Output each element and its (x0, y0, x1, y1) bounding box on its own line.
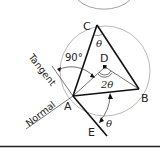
label-theta-C: θ (96, 38, 102, 49)
label-C: C (83, 20, 91, 33)
label-normal: Normal (23, 99, 57, 129)
label-theta-E: θ (106, 118, 112, 129)
label-2theta: 2θ (100, 79, 113, 90)
arrowhead-down (99, 117, 104, 123)
circle-theorem-diagram: C B A D E 90° θ 2θ θ Tangent Normal (0, 0, 160, 149)
center-point-D (103, 65, 107, 69)
arrowhead-left (57, 67, 61, 72)
central-angle-arc-1 (99, 71, 111, 75)
partial-circle-arc (78, 0, 130, 9)
right-angle-arc (58, 67, 94, 77)
inscribed-angle-arc (94, 34, 103, 36)
side-AB (73, 89, 139, 96)
label-E: E (88, 126, 95, 139)
label-A: A (64, 100, 72, 113)
label-90-degrees: 90° (65, 52, 83, 63)
label-B: B (141, 92, 149, 105)
arrowhead-up (108, 93, 113, 99)
label-D: D (100, 52, 108, 65)
label-tangent: Tangent (26, 51, 59, 88)
circle (60, 26, 150, 116)
